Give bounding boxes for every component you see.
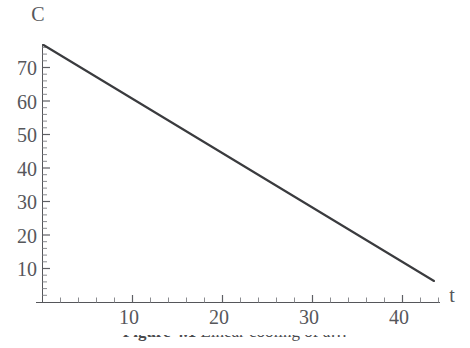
y-tick-label: 30 — [17, 191, 37, 213]
y-tick-label: 20 — [17, 225, 37, 247]
x-axis-label: t — [449, 284, 455, 306]
figure-panel: 10 20 30 40 50 60 70 10 20 30 40 C t Fig… — [0, 0, 470, 348]
caption-figure-number: Figure 4.1 — [123, 335, 196, 341]
x-axis-minor-ticks — [61, 298, 439, 303]
y-tick-label: 40 — [17, 158, 37, 180]
y-tick-label: 60 — [17, 91, 37, 113]
figure-caption: Figure 4.1 Linear cooling of a… — [0, 335, 470, 348]
x-tick-label: 20 — [209, 306, 229, 328]
x-tick-label: 10 — [119, 306, 139, 328]
y-axis-label: C — [31, 3, 44, 25]
y-tick-label: 10 — [17, 258, 37, 280]
x-tick-label: 40 — [389, 306, 409, 328]
x-tick-label: 30 — [299, 306, 319, 328]
caption-figure-text: Linear cooling of a… — [200, 335, 347, 341]
y-axis-major-ticks — [43, 68, 51, 269]
x-axis-major-ticks — [133, 295, 403, 303]
y-tick-label: 70 — [17, 57, 37, 79]
line-chart: 10 20 30 40 50 60 70 10 20 30 40 C t — [0, 0, 470, 348]
x-axis-tick-labels: 10 20 30 40 — [119, 306, 409, 328]
y-axis-tick-labels: 10 20 30 40 50 60 70 — [17, 57, 37, 280]
y-tick-label: 50 — [17, 124, 37, 146]
data-series-line — [44, 45, 435, 281]
